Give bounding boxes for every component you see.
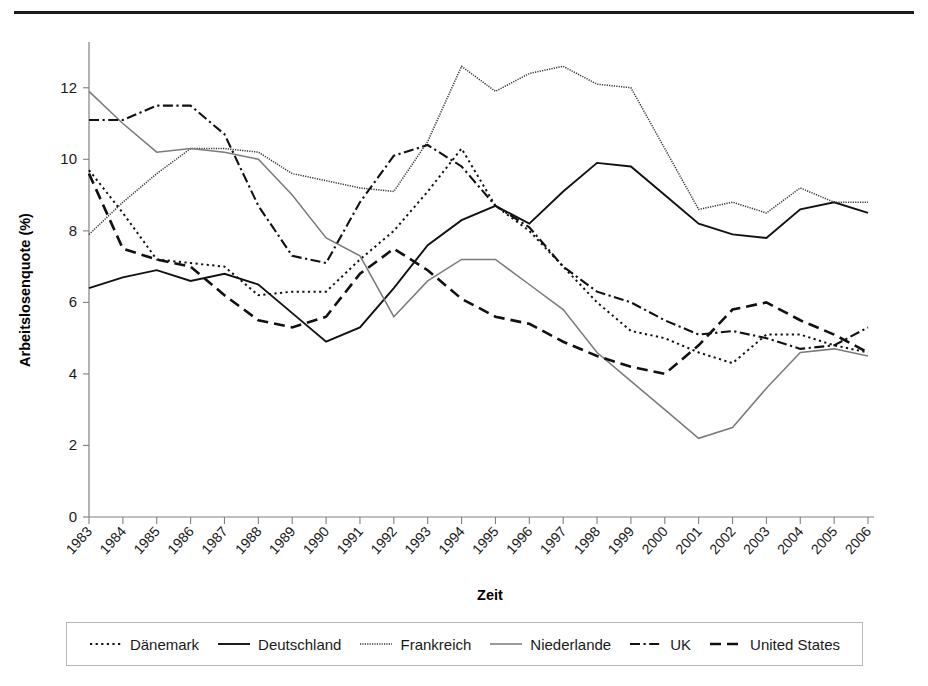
y-axis: 024681012	[60, 42, 89, 525]
legend-item-deutschland[interactable]: Deutschland	[217, 636, 341, 653]
y-axis-title: Arbeitslosenquote (%)	[17, 213, 33, 367]
x-tick-label: 2005	[808, 523, 841, 557]
x-tick-label: 2006	[841, 523, 874, 557]
x-tick-label: 1989	[266, 523, 299, 557]
x-axis: 1983198419851986198719881989199019911992…	[62, 517, 874, 557]
x-tick-label: 1995	[469, 523, 502, 557]
series-lines	[89, 66, 868, 438]
x-tick-label: 1985	[130, 523, 163, 557]
legend-swatch-dotted-icon	[89, 638, 123, 650]
legend-label: Niederlande	[530, 636, 611, 653]
chart-canvas: 024681012 198319841985198619871988198919…	[0, 0, 928, 620]
legend-label: Deutschland	[258, 636, 341, 653]
x-tick-label: 1983	[62, 523, 95, 557]
legend-label: Dänemark	[130, 636, 199, 653]
x-tick-label: 1992	[367, 523, 400, 557]
legend-label: UK	[670, 636, 691, 653]
legend-item-frankreich[interactable]: Frankreich	[359, 636, 471, 653]
legend-item-united-states[interactable]: United States	[709, 636, 840, 653]
legend-swatch-dashed-icon	[709, 638, 743, 650]
x-axis-title: Zeit	[477, 587, 503, 603]
legend-item-dänemark[interactable]: Dänemark	[89, 636, 199, 653]
x-tick-label: 2002	[706, 523, 739, 557]
y-tick-label: 10	[60, 150, 77, 167]
legend-swatch-dash-dot-icon	[629, 638, 663, 650]
y-tick-label: 0	[69, 508, 77, 525]
x-tick-label: 1997	[537, 523, 570, 557]
x-tick-label: 1991	[333, 523, 366, 557]
x-tick-label: 1994	[435, 523, 468, 557]
x-tick-label: 1986	[164, 523, 197, 557]
legend-label: Frankreich	[400, 636, 471, 653]
chart-legend: DänemarkDeutschlandFrankreichNiederlande…	[66, 622, 863, 666]
x-tick-label: 1993	[401, 523, 434, 557]
legend-swatch-fine-gray-icon	[489, 638, 523, 650]
x-tick-label: 1990	[300, 523, 333, 557]
x-tick-label: 1998	[571, 523, 604, 557]
series-line-uk	[89, 106, 868, 349]
unemployment-rate-line-chart: 024681012 198319841985198619871988198919…	[0, 0, 928, 686]
x-tick-label: 1987	[198, 523, 231, 557]
series-line-united-states	[89, 174, 868, 374]
series-line-deutschland	[89, 163, 868, 342]
x-tick-label: 2004	[774, 523, 807, 557]
x-tick-label: 1984	[96, 523, 129, 557]
x-tick-label: 1996	[503, 523, 536, 557]
series-line-danemark	[89, 149, 868, 364]
y-tick-label: 6	[69, 293, 77, 310]
legend-swatch-fine-dot-icon	[359, 638, 393, 650]
y-tick-label: 2	[69, 436, 77, 453]
series-line-niederlande	[89, 91, 868, 438]
x-tick-label: 2003	[740, 523, 773, 557]
y-tick-label: 12	[60, 79, 77, 96]
x-tick-label: 1988	[232, 523, 265, 557]
y-tick-label: 8	[69, 222, 77, 239]
x-tick-label: 2000	[638, 523, 671, 557]
x-tick-label: 1999	[604, 523, 637, 557]
x-tick-label: 2001	[672, 523, 705, 557]
legend-label: United States	[750, 636, 840, 653]
legend-item-niederlande[interactable]: Niederlande	[489, 636, 611, 653]
legend-item-uk[interactable]: UK	[629, 636, 691, 653]
y-tick-label: 4	[69, 365, 77, 382]
legend-swatch-solid-icon	[217, 638, 251, 650]
